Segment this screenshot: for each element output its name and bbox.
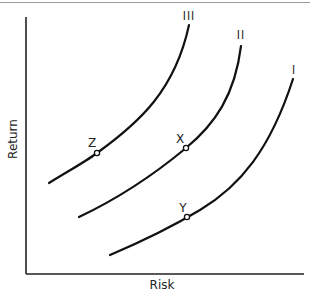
curve-III	[49, 25, 189, 183]
point-label-Z: Z	[88, 136, 96, 150]
point-Y-marker	[184, 214, 189, 219]
point-X-marker	[183, 145, 188, 150]
indifference-curves-chart: I II III Z X Y Risk Return	[0, 0, 310, 294]
point-label-Y: Y	[178, 201, 187, 215]
x-axis-label: Risk	[150, 278, 175, 292]
point-label-X: X	[176, 132, 184, 146]
curve-I	[110, 79, 293, 255]
point-Z-marker	[94, 150, 99, 155]
curve-label-III: III	[183, 9, 196, 23]
curve-label-I: I	[292, 63, 296, 77]
curve-label-II: II	[237, 28, 245, 42]
y-axis-label: Return	[6, 119, 20, 159]
curve-II	[79, 46, 241, 217]
